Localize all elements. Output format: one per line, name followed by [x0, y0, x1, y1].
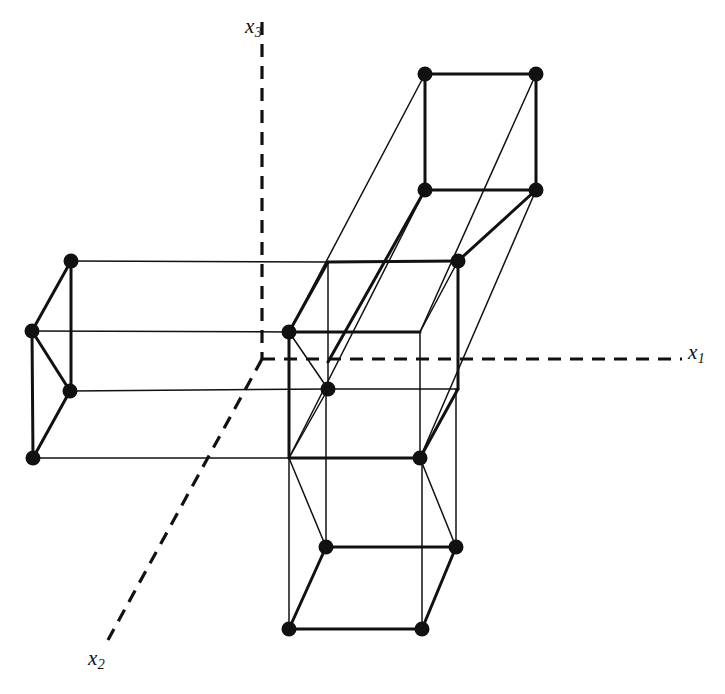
lattice-point	[529, 67, 544, 82]
axis-label-x1: x1	[688, 342, 704, 363]
lattice-edge	[289, 547, 326, 629]
lattice-point	[25, 324, 40, 339]
axis-label-x2: x2	[88, 648, 104, 669]
lattice-edge	[328, 190, 425, 362]
axis-label-x1-base: x	[688, 340, 697, 364]
lattice-edge	[32, 261, 71, 331]
lattice-point	[449, 540, 464, 555]
lattice-edge	[33, 391, 70, 458]
lattice-point	[529, 183, 544, 198]
lattice-edge	[458, 190, 536, 261]
lattice-edge	[289, 190, 425, 458]
lattice-canvas	[0, 0, 725, 694]
lattice-edge	[420, 458, 456, 547]
lattice-point	[418, 183, 433, 198]
lattice-point	[26, 451, 41, 466]
lattice-edge	[422, 547, 456, 629]
lattice-point	[413, 451, 428, 466]
lattice-point	[319, 540, 334, 555]
lattice-figure: x3 x1 x2	[0, 0, 725, 694]
lattice-point	[282, 325, 297, 340]
lattice-edge	[71, 261, 328, 262]
lattice-edge	[289, 262, 328, 332]
axis-label-x2-base: x	[88, 646, 97, 670]
axis-label-x3-base: x	[245, 14, 254, 38]
x2-axis	[108, 359, 262, 640]
lattice-edge	[420, 74, 536, 332]
axis-label-x2-sub: 2	[98, 657, 105, 672]
lattice-point	[63, 384, 78, 399]
axis-label-x1-sub: 1	[698, 351, 705, 366]
lattice-edge	[328, 261, 458, 262]
lattice-edge	[420, 261, 458, 332]
lattice-edge	[420, 190, 536, 458]
lattice-edge	[32, 331, 70, 391]
axis-label-x3: x3	[245, 16, 261, 37]
lattice-point	[64, 254, 79, 269]
lattice-point	[321, 382, 336, 397]
lattice-point	[418, 67, 433, 82]
axis-label-x3-sub: 3	[255, 25, 262, 40]
lattice-point	[451, 254, 466, 269]
lattice-edge	[420, 389, 458, 458]
lattice-point	[415, 622, 430, 637]
lattice-edge	[32, 331, 33, 458]
lattice-point	[282, 622, 297, 637]
lattice-edge	[289, 458, 326, 547]
